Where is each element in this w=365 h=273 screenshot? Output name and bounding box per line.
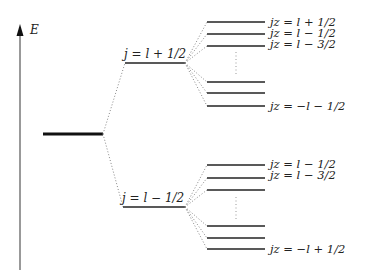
energy-axis: E [17,23,40,270]
upper-connectors [185,22,207,106]
lower-connectors [185,165,207,249]
upper-sublevel-label: jz = l − 3/2 [267,37,336,51]
lower-sublevels [207,165,265,249]
lower-sublevel-label: jz = l − 3/2 [267,168,336,182]
connector-base-lower [103,134,123,207]
upper-sublevel-label: jz = −l − 1/2 [267,99,345,113]
j-level-upper-label: j = l + 1/2 [121,47,186,61]
arrow-up-icon [17,24,24,36]
upper-sublevels [207,22,265,106]
lower-sublevel-label: jz = −l + 1/2 [267,242,345,256]
j-level-lower-label: j = l − 1/2 [119,191,184,205]
energy-level-diagram: E j = l + 1/2 j = l − 1/2 jz = l + 1/2 j… [0,0,365,273]
axis-label-E: E [29,23,39,37]
connector-base-upper [103,63,125,134]
